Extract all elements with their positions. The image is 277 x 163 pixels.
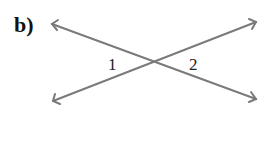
intersecting-lines-diagram: 1 2 xyxy=(0,0,277,163)
line-b xyxy=(53,22,256,101)
angle-1-label: 1 xyxy=(108,55,117,74)
angle-2-label: 2 xyxy=(189,55,198,74)
